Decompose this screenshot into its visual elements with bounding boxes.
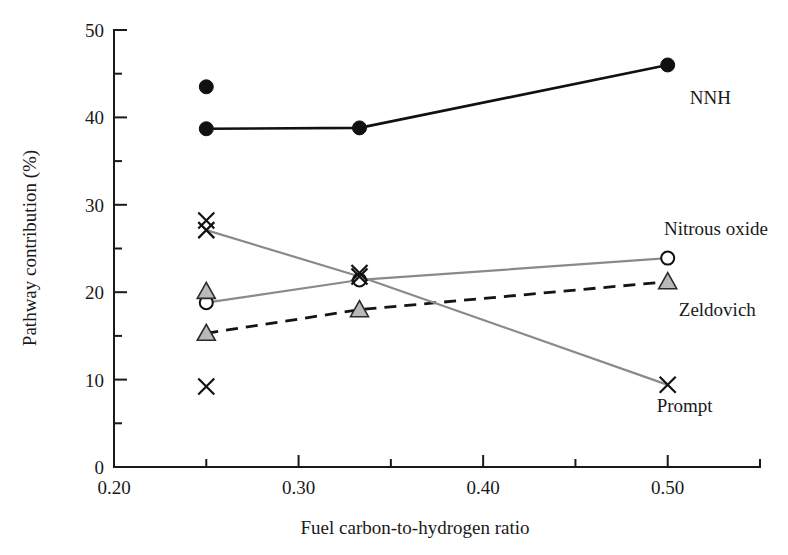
marker-nnh bbox=[661, 58, 675, 72]
series-line-nitrous-oxide bbox=[206, 258, 667, 303]
y-tick-label: 0 bbox=[95, 457, 105, 478]
marker-nnh bbox=[352, 121, 366, 135]
chart-series-labels: NNHNitrous oxideZeldovichPrompt bbox=[657, 87, 768, 416]
nnh-upper-point bbox=[199, 80, 213, 94]
y-tick-label: 20 bbox=[85, 282, 104, 303]
marker-zeldovich bbox=[659, 273, 677, 289]
chart-figure: 010203040500.200.300.400.50 NNHNitrous o… bbox=[0, 0, 788, 555]
marker-prompt bbox=[660, 377, 676, 393]
chart-tick-labels: 010203040500.200.300.400.50 bbox=[85, 20, 684, 498]
y-tick-label: 30 bbox=[85, 195, 104, 216]
marker-nnh bbox=[199, 122, 213, 136]
prompt-lower-point bbox=[198, 379, 214, 395]
series-label-nitrous-oxide: Nitrous oxide bbox=[664, 218, 768, 239]
x-tick-label: 0.50 bbox=[651, 477, 684, 498]
pathway-contribution-line-chart: 010203040500.200.300.400.50 NNHNitrous o… bbox=[0, 0, 788, 555]
x-tick-label: 0.40 bbox=[467, 477, 500, 498]
marker-prompt bbox=[198, 222, 214, 238]
chart-series-markers bbox=[197, 58, 676, 393]
x-tick-label: 0.30 bbox=[282, 477, 315, 498]
prompt-upper-point bbox=[198, 213, 214, 229]
series-label-nnh: NNH bbox=[690, 87, 731, 108]
zeldovich-upper-point bbox=[197, 282, 215, 298]
x-tick-label: 0.20 bbox=[97, 477, 130, 498]
y-axis-title: Pathway contribution (%) bbox=[19, 150, 41, 346]
series-line-prompt bbox=[206, 230, 667, 385]
y-tick-label: 10 bbox=[85, 370, 104, 391]
series-label-zeldovich: Zeldovich bbox=[679, 299, 757, 320]
y-tick-label: 40 bbox=[85, 107, 104, 128]
series-line-zeldovich bbox=[206, 282, 667, 334]
series-label-prompt: Prompt bbox=[657, 395, 714, 416]
y-tick-label: 50 bbox=[85, 20, 104, 41]
chart-series-lines bbox=[206, 65, 667, 385]
marker-nitrous-oxide bbox=[661, 252, 674, 265]
x-axis-title: Fuel carbon-to-hydrogen ratio bbox=[301, 517, 530, 538]
series-line-nnh bbox=[206, 65, 667, 129]
